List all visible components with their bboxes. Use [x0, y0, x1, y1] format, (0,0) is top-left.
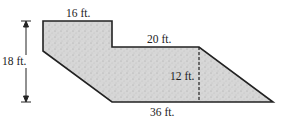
- inner-height-label: 12 ft.: [170, 70, 194, 82]
- total-height-label: 18 ft.: [2, 55, 26, 67]
- step-width-label: 20 ft.: [147, 33, 171, 45]
- composite-shape-diagram: 16 ft. 20 ft. 18 ft. 12 ft. 36 ft.: [0, 0, 285, 127]
- top-width-label: 16 ft.: [66, 7, 90, 19]
- bottom-width-label: 36 ft.: [150, 106, 174, 118]
